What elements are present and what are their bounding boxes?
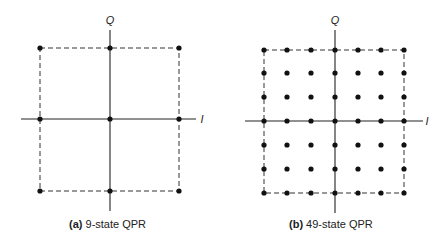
state-point-a (107, 45, 112, 50)
state-point-b (284, 118, 289, 123)
state-point-b (308, 190, 313, 195)
caption-text-a: 9-state QPR (82, 218, 146, 230)
state-point-b (355, 118, 360, 123)
state-point-b (284, 70, 289, 75)
state-point-b (284, 142, 289, 147)
state-point-a (107, 116, 112, 121)
state-point-b (332, 166, 337, 171)
state-point-b (261, 166, 266, 171)
state-point-b (401, 118, 406, 123)
state-point-b (355, 190, 360, 195)
state-point-b (308, 142, 313, 147)
state-point-a (107, 188, 112, 193)
caption-tag-b: (b) (289, 218, 303, 230)
state-point-a (37, 116, 42, 121)
state-point-b (284, 94, 289, 99)
state-point-b (401, 47, 406, 52)
state-point-b (401, 166, 406, 171)
state-point-b (378, 118, 383, 123)
state-point-b (308, 166, 313, 171)
state-point-b (308, 47, 313, 52)
state-point-b (332, 47, 337, 52)
caption-9-state-qpr: (a) 9-state QPR (69, 218, 146, 230)
state-point-b (355, 142, 360, 147)
state-point-b (355, 70, 360, 75)
state-point-b (308, 118, 313, 123)
state-point-b (332, 142, 337, 147)
state-point-b (401, 142, 406, 147)
state-point-a (37, 188, 42, 193)
state-point-b (355, 94, 360, 99)
state-point-b (261, 118, 266, 123)
state-point-b (284, 166, 289, 171)
q-axis-label-b: Q (331, 14, 340, 26)
state-point-b (261, 47, 266, 52)
state-point-b (261, 94, 266, 99)
state-point-b (378, 166, 383, 171)
caption-49-state-qpr: (b) 49-state QPR (289, 218, 373, 230)
state-point-b (401, 70, 406, 75)
state-point-b (401, 190, 406, 195)
state-point-b (284, 190, 289, 195)
state-point-b (355, 47, 360, 52)
state-point-b (378, 47, 383, 52)
state-point-b (401, 94, 406, 99)
state-point-b (378, 190, 383, 195)
state-point-b (261, 142, 266, 147)
state-point-a (176, 45, 181, 50)
state-point-b (355, 166, 360, 171)
i-axis-label-b: I (425, 115, 428, 127)
constellation-diagrams: QIQI (0, 0, 444, 247)
state-point-a (37, 45, 42, 50)
q-axis-label-a: Q (106, 14, 115, 26)
state-point-b (378, 94, 383, 99)
state-point-b (261, 190, 266, 195)
state-point-a (176, 116, 181, 121)
state-point-b (332, 70, 337, 75)
state-point-b (378, 70, 383, 75)
state-point-b (332, 118, 337, 123)
state-point-b (332, 94, 337, 99)
state-point-b (261, 70, 266, 75)
state-point-b (378, 142, 383, 147)
caption-tag-a: (a) (69, 218, 82, 230)
state-point-b (308, 70, 313, 75)
i-axis-label-a: I (200, 113, 203, 125)
state-point-b (332, 190, 337, 195)
state-point-b (308, 94, 313, 99)
state-point-b (284, 47, 289, 52)
state-point-a (176, 188, 181, 193)
caption-text-b: 49-state QPR (303, 218, 373, 230)
